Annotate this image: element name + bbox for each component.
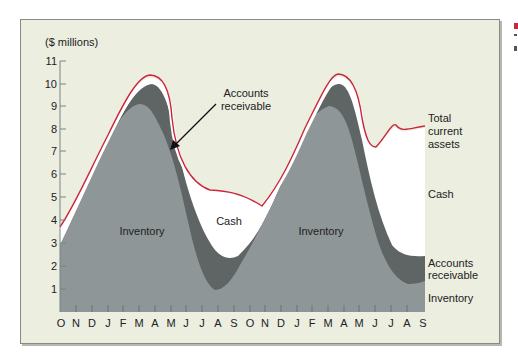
svg-text:S: S [419,317,426,329]
svg-text:J: J [372,317,378,329]
page-edge-text-fragment [514,34,517,36]
inventory-label-1: Inventory [119,225,165,237]
svg-text:1: 1 [51,283,57,295]
svg-text:M: M [166,317,175,329]
svg-text:J: J [388,317,394,329]
ar-callout-line2: receivable [221,100,271,112]
svg-text:F: F [309,317,316,329]
cash-label-1: Cash [216,215,242,227]
ar-callout-arrow [175,104,216,145]
svg-text:O: O [57,317,66,329]
svg-text:F: F [120,317,127,329]
svg-text:Accounts: Accounts [428,257,474,269]
svg-text:J: J [294,317,300,329]
page-edge-text-fragment [514,46,517,51]
svg-text:M: M [134,317,143,329]
svg-text:A: A [151,317,159,329]
svg-text:A: A [340,317,348,329]
svg-text:3: 3 [51,237,57,249]
x-tick-labels: O N D J F M A M J J A S O N D J F M A M … [57,317,427,329]
svg-text:D: D [277,317,285,329]
svg-text:6: 6 [51,168,57,180]
svg-text:N: N [261,317,269,329]
svg-text:assets: assets [428,138,460,150]
svg-text:receivable: receivable [428,269,478,281]
svg-text:D: D [88,317,96,329]
right-labels: Total current assets Cash Accounts recei… [428,112,478,304]
svg-text:N: N [72,317,80,329]
svg-text:S: S [230,317,237,329]
svg-text:M: M [323,317,332,329]
stacked-area-chart: ($ millions) 1 2 3 4 5 6 7 8 9 10 11 O N… [0,0,518,354]
y-axis-unit-label: ($ millions) [45,36,98,48]
svg-text:J: J [199,317,205,329]
inventory-label-2: Inventory [298,225,344,237]
svg-text:O: O [246,317,255,329]
page-edge-red-mark [514,23,518,29]
svg-text:Cash: Cash [428,188,454,200]
svg-text:current: current [428,125,462,137]
svg-text:A: A [403,317,411,329]
svg-text:11: 11 [46,55,57,67]
svg-text:A: A [214,317,222,329]
svg-text:5: 5 [51,191,57,203]
svg-text:8: 8 [51,123,57,135]
svg-text:10: 10 [45,78,57,90]
y-tick-labels: 1 2 3 4 5 6 7 8 9 10 11 [45,55,57,295]
svg-text:Total: Total [428,112,451,124]
ar-callout-line1: Accounts [223,87,269,99]
svg-text:4: 4 [51,214,57,226]
svg-text:Inventory: Inventory [428,292,474,304]
svg-text:9: 9 [51,100,57,112]
svg-text:7: 7 [51,145,57,157]
svg-text:2: 2 [51,260,57,272]
svg-text:M: M [354,317,363,329]
svg-text:J: J [183,317,189,329]
svg-text:J: J [105,317,111,329]
